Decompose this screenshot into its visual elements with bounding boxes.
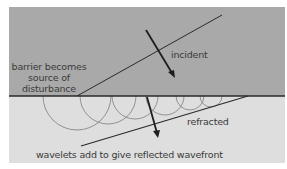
caption-label: wavelets add to give reflected wavefront [36,149,223,160]
huygens-wavelet-diagram: barrier becomes source of disturbance in… [0,0,287,169]
barrier-label: barrier becomes source of disturbance [10,61,88,94]
incident-label: incident [171,49,208,60]
refracted-label: refracted [187,116,229,127]
barrier-label-line-1: barrier becomes [10,61,88,72]
barrier-label-line-3: disturbance [10,83,88,94]
barrier-label-line-2: source of [10,72,88,83]
